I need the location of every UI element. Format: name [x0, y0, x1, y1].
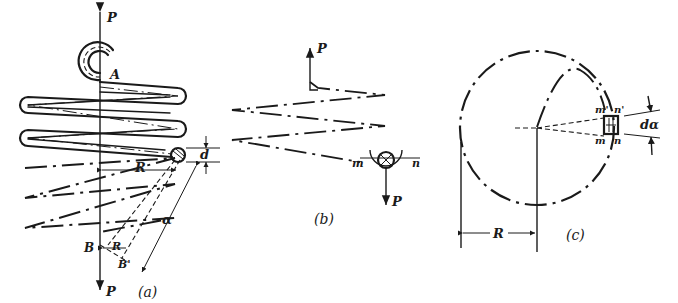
element-label-m-prime: m' — [595, 104, 609, 115]
section-label-n: n — [412, 157, 420, 170]
radius-label-c: R — [492, 226, 504, 241]
point-b-label: B — [83, 241, 94, 255]
panel-a: P P A R d α B R — [20, 10, 220, 300]
radius-lower-label: R — [111, 240, 121, 253]
panel-c: m' n' m n dα R (c) — [460, 51, 660, 252]
radius-label-a: R — [134, 160, 146, 175]
angle-label-dalpha: dα — [640, 117, 659, 132]
caption-a: (a) — [138, 284, 157, 300]
hook-inner — [89, 51, 108, 73]
element-label-n: n — [614, 135, 621, 146]
caption-b: (b) — [314, 211, 334, 227]
element-label-n-prime: n' — [614, 104, 624, 115]
caption-c: (c) — [566, 227, 585, 243]
force-label-top-b: P — [316, 41, 328, 56]
spring-diagram: P P A R d α B R — [0, 0, 678, 303]
element-label-m: m — [595, 135, 606, 146]
panel-b: P P m n (b) — [232, 41, 420, 227]
diameter-label-d: d — [200, 147, 209, 162]
point-b-prime-label: B' — [117, 258, 131, 271]
force-label-bottom-a: P — [105, 284, 117, 299]
helix-angle-label: α — [162, 212, 172, 227]
coil-outline-outer — [20, 82, 186, 157]
section-label-m: m — [352, 157, 364, 170]
coil-centerline-b — [232, 82, 385, 162]
point-a-label: A — [108, 67, 120, 82]
force-label-bottom-b: P — [391, 194, 403, 209]
force-label-top-a: P — [106, 10, 118, 25]
